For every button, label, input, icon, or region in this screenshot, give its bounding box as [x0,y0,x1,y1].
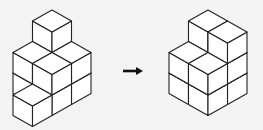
before-cube-stack [13,10,91,127]
after-cube-stack [169,10,247,116]
arrow-right-icon [123,67,143,75]
diagram-canvas [0,0,263,130]
